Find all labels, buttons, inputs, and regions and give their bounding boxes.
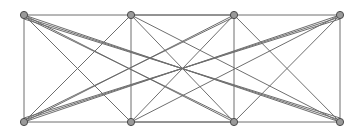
graph-vertex-b1[interactable] bbox=[20, 118, 27, 125]
graph-vertex-b3[interactable] bbox=[230, 118, 237, 125]
graph-vertex-b2[interactable] bbox=[127, 118, 134, 125]
graph-vertex-t4[interactable] bbox=[336, 11, 343, 18]
graph-canvas bbox=[0, 0, 363, 139]
graph-figure bbox=[0, 0, 363, 139]
graph-vertex-t2[interactable] bbox=[127, 11, 134, 18]
edge-layer bbox=[24, 15, 340, 122]
graph-vertex-b4[interactable] bbox=[336, 118, 343, 125]
graph-vertex-t3[interactable] bbox=[230, 11, 237, 18]
graph-vertex-t1[interactable] bbox=[20, 11, 27, 18]
